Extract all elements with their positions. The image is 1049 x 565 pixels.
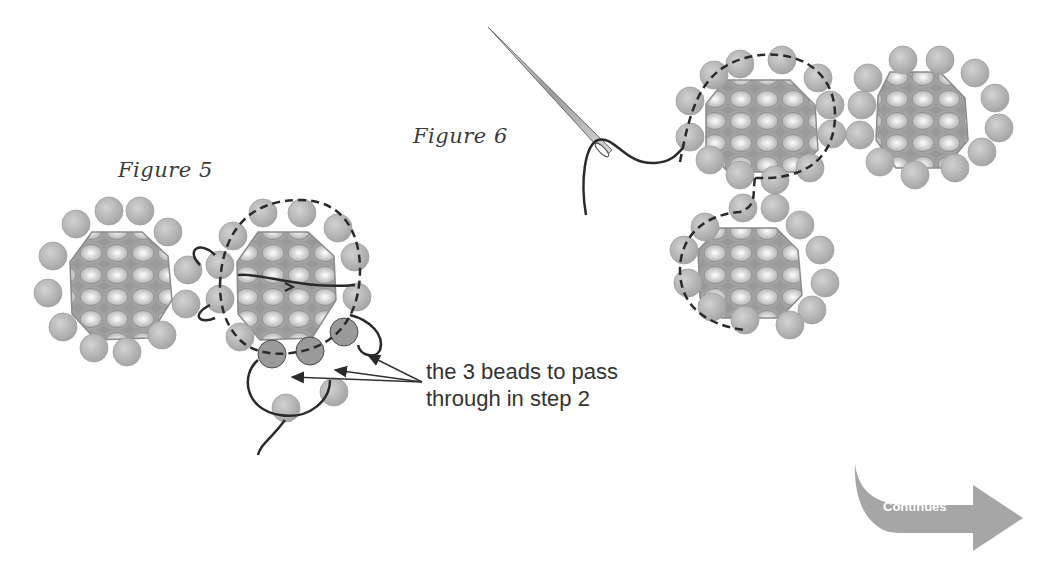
bead-flower-right — [194, 199, 381, 455]
figure-6-diagram — [488, 27, 1013, 339]
continues-label: Continues — [883, 499, 947, 514]
figure-5-label: Figure 5 — [118, 158, 213, 182]
bead-flower-top-left — [676, 46, 846, 194]
figure-5-diagram — [34, 197, 422, 455]
continues-button[interactable]: Continues — [853, 463, 1023, 553]
bead-flower-left — [34, 197, 202, 366]
callout-line-1: the 3 beads to pass — [426, 358, 618, 385]
callout-line-2: through in step 2 — [426, 385, 618, 412]
callout-text: the 3 beads to pass through in step 2 — [426, 358, 618, 412]
figure-6-label: Figure 6 — [413, 124, 508, 148]
bead-flower-top-right — [846, 46, 1013, 189]
bead-flower-bottom — [670, 178, 839, 339]
